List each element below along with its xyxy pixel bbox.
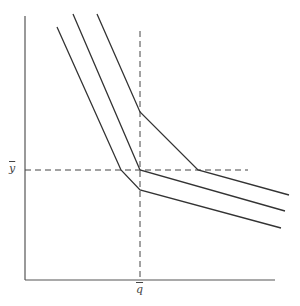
outer-curve bbox=[97, 14, 289, 195]
inner-curve bbox=[57, 27, 281, 228]
q-bar-label: q bbox=[136, 284, 143, 295]
q-bar-label-text: q bbox=[136, 283, 143, 296]
y-bar-label: y bbox=[9, 163, 15, 174]
diagram-canvas bbox=[0, 0, 300, 306]
y-bar-label-text: y bbox=[9, 162, 15, 175]
middle-curve bbox=[73, 14, 285, 211]
